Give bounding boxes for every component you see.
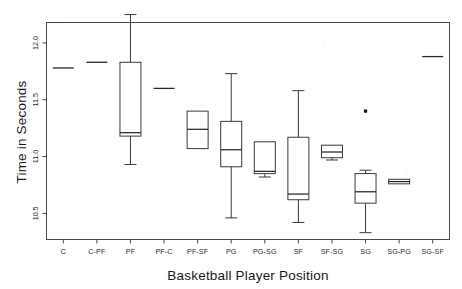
box-plot-SG: [355, 110, 376, 233]
box-plot-PF: [120, 15, 141, 165]
x-tick-label: SF-SG: [321, 247, 344, 256]
x-tick-label: SG-PG: [387, 247, 411, 256]
y-tick-label: 12.0: [31, 36, 40, 50]
y-tick-label: 10.5: [31, 206, 40, 220]
x-tick-label: SG: [360, 247, 371, 256]
box-plot-SF: [288, 91, 309, 223]
y-axis-ticks: 10.511.011.512.0: [31, 36, 47, 220]
box-plot-PG-SG: [254, 142, 275, 177]
x-tick-label: SF: [294, 247, 304, 256]
box-plot-SG-PG: [389, 179, 410, 184]
x-tick-label: C: [61, 247, 66, 256]
box-plot-PG: [221, 74, 242, 218]
box-plot-PF-SF: [187, 111, 208, 148]
y-tick-label: 11.5: [31, 93, 40, 106]
box-plot-SF-SG: [321, 145, 342, 160]
box-plots-layer: [53, 15, 443, 233]
x-axis-title: Basketball Player Position: [167, 268, 328, 283]
box-iqr-rect: [355, 174, 376, 204]
y-axis-title-group: Time in Seconds: [14, 80, 29, 183]
x-axis-ticks: [63, 240, 432, 244]
x-tick-label: PF-C: [155, 247, 172, 256]
box-iqr-rect: [254, 142, 275, 174]
y-tick-label: 11.0: [31, 150, 40, 163]
x-axis-category-labels: CC-PFPFPF-CPF-SFPGPG-SGSFSF-SGSGSG-PGSG-…: [61, 247, 445, 256]
x-tick-label: PG-SG: [253, 247, 277, 256]
x-tick-label: SG-SF: [421, 247, 444, 256]
plot-frame: [47, 23, 450, 240]
x-tick-label: PF: [126, 247, 136, 256]
x-tick-label: C-PF: [88, 247, 106, 256]
x-tick-label: PF-SF: [187, 247, 209, 256]
y-axis-title: Time in Seconds: [14, 80, 29, 183]
plot-canvas: Time in Seconds Basketball Player Positi…: [0, 0, 462, 289]
box-iqr-rect: [221, 121, 242, 166]
boxplot-figure: Time in Seconds Basketball Player Positi…: [0, 0, 462, 289]
x-tick-label: PG: [226, 247, 237, 256]
box-iqr-rect: [288, 137, 309, 199]
x-axis-title-group: Basketball Player Position: [167, 268, 328, 283]
box-iqr-rect: [120, 62, 141, 136]
outlier-point: [364, 110, 367, 113]
